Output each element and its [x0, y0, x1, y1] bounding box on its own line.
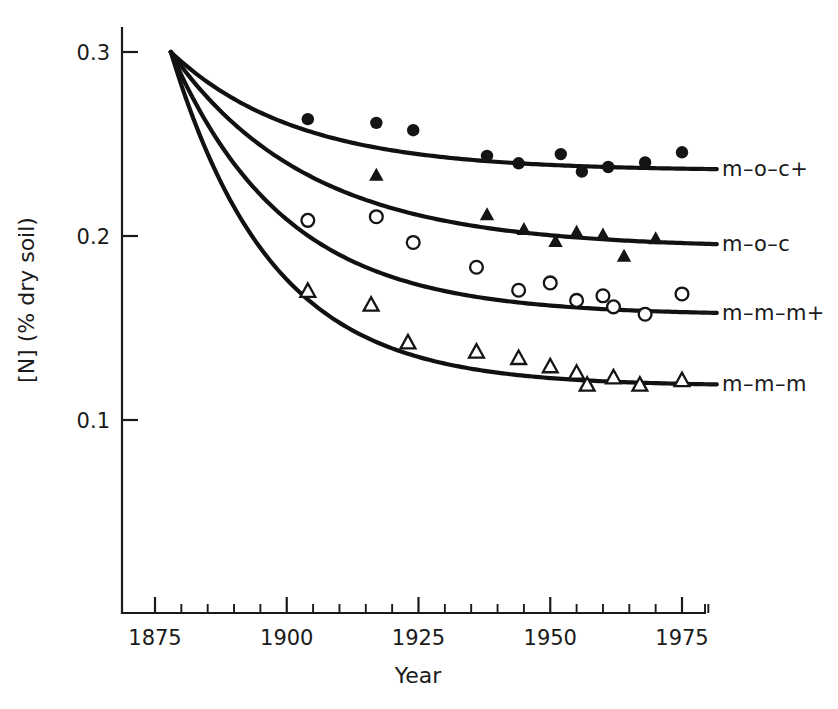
data-point-m-m-m: [364, 297, 379, 310]
data-point-m-m-m: [569, 365, 584, 378]
data-point-m-o-c: [369, 168, 383, 181]
y-tick-label: 0.3: [77, 41, 110, 65]
data-point-m-o-c+: [555, 148, 567, 160]
y-tick-label: 0.2: [77, 225, 110, 249]
axes-group: [122, 28, 705, 613]
x-tick-label: 1900: [260, 626, 313, 650]
data-point-m-m-m: [675, 373, 690, 386]
series-label-m-o-c: m–o–c: [722, 232, 790, 256]
data-point-m-m-m: [543, 359, 558, 372]
x-tick-label: 1975: [655, 626, 708, 650]
data-point-m-m-m+: [570, 294, 583, 307]
data-point-m-m-m+: [470, 261, 483, 274]
data-markers-group: [300, 113, 689, 391]
data-point-m-o-c+: [512, 157, 524, 169]
axis-tick-labels-group: 0.30.20.118751900192519501975: [77, 41, 709, 650]
data-point-m-m-m: [606, 370, 621, 383]
figure-container: 0.30.20.118751900192519501975 m–o–c+m–o–…: [0, 0, 838, 709]
data-point-m-m-m+: [544, 277, 557, 290]
data-point-m-m-m: [300, 283, 315, 296]
data-point-m-o-c+: [639, 156, 651, 168]
data-point-m-m-m+: [607, 300, 620, 313]
data-point-m-o-c: [617, 249, 631, 262]
data-point-m-o-c+: [407, 124, 419, 136]
y-tick-label: 0.1: [77, 409, 110, 433]
x-tick-label: 1950: [524, 626, 577, 650]
x-axis-title: Year: [394, 663, 443, 688]
series-curve-m-m-m: [171, 52, 717, 384]
axis-ticks-group: [122, 52, 708, 613]
series-label-m-m-m: m–m–m: [722, 372, 807, 396]
series-labels-group: m–o–c+m–o–cm–m–m+m–m–m: [700, 157, 825, 396]
series-curve-m-o-c+: [171, 52, 717, 169]
data-point-m-m-m: [469, 344, 484, 357]
x-tick-label: 1925: [392, 626, 445, 650]
data-point-m-m-m+: [407, 236, 420, 249]
data-point-m-o-c+: [676, 146, 688, 158]
data-point-m-o-c: [517, 222, 531, 235]
data-point-m-m-m+: [676, 288, 689, 301]
data-point-m-o-c+: [481, 150, 493, 162]
y-axis-title: [N] (% dry soil): [14, 217, 39, 383]
data-point-m-o-c+: [302, 113, 314, 125]
data-point-m-o-c+: [602, 161, 614, 173]
x-tick-label: 1875: [128, 626, 181, 650]
data-point-m-o-c: [569, 225, 583, 238]
data-point-m-m-m: [511, 351, 526, 364]
fitted-curves-group: [171, 52, 717, 384]
series-curve-m-o-c: [171, 52, 717, 244]
data-point-m-m-m+: [301, 214, 314, 227]
data-point-m-m-m: [401, 335, 416, 348]
data-point-m-m-m+: [512, 284, 525, 297]
nitrogen-decline-chart: 0.30.20.118751900192519501975 m–o–c+m–o–…: [0, 0, 838, 709]
data-point-m-m-m+: [597, 289, 610, 302]
data-point-m-o-c+: [576, 165, 588, 177]
data-point-m-o-c: [480, 207, 494, 220]
data-point-m-m-m+: [639, 308, 652, 321]
data-point-m-m-m+: [370, 210, 383, 223]
data-point-m-o-c+: [370, 117, 382, 129]
data-point-m-o-c: [648, 231, 662, 244]
series-label-m-o-c+: m–o–c+: [722, 157, 808, 181]
data-point-m-o-c: [596, 227, 610, 240]
series-label-m-m-m+: m–m–m+: [722, 301, 825, 325]
series-curve-m-m-m+: [171, 52, 717, 313]
